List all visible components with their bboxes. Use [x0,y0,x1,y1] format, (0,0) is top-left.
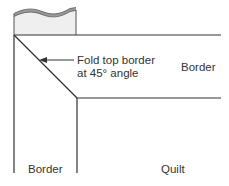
label-quilt: Quilt [161,163,185,176]
callout-text: Fold top border at 45° angle [77,54,155,80]
callout-line-2: at 45° angle [77,67,155,80]
label-left-border: Border [28,163,63,176]
label-right-border: Border [181,61,216,74]
callout-line-1: Fold top border [77,54,155,67]
fold-line-45 [14,35,77,98]
mitered-border-diagram [0,0,229,186]
arrowhead-icon [39,57,47,63]
